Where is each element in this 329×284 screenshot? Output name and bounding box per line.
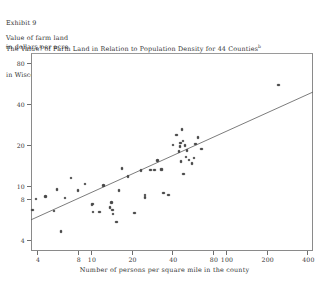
y-tick-label: 80 (17, 60, 25, 67)
data-point (77, 189, 79, 191)
y-tick: 40 (27, 104, 31, 105)
x-tick: 80 (213, 251, 214, 255)
y-tick-label: 4 (21, 237, 25, 244)
data-point (179, 142, 181, 144)
regression-line (31, 53, 313, 251)
x-tick: 200 (267, 251, 268, 255)
exhibit-number: Exhibit 9 (6, 19, 324, 28)
y-tick-label: 40 (17, 101, 25, 108)
data-point (153, 169, 155, 171)
x-tick-label: 20 (128, 256, 136, 263)
data-point (182, 173, 184, 175)
x-tick: 20 (132, 251, 133, 255)
data-point (56, 188, 58, 190)
x-tick-label: 40 (169, 256, 177, 263)
data-point (115, 221, 117, 223)
y-tick-label: 8 (21, 196, 25, 203)
data-point (118, 189, 120, 191)
y-axis-label: Value of farm land in dollars per acre (6, 34, 68, 51)
data-point (133, 212, 135, 214)
x-tick-label: 200 (262, 256, 274, 263)
x-tick: 40 (172, 251, 173, 255)
x-tick: 8 (78, 251, 79, 255)
x-tick-label: 80 (210, 256, 218, 263)
y-tick: 20 (27, 145, 31, 146)
x-tick-label: 8 (77, 256, 81, 263)
x-tick: 400 (307, 251, 308, 255)
y-axis-label-line-1: Value of farm land (6, 34, 68, 43)
data-point (175, 134, 177, 136)
x-tick: 100 (226, 251, 227, 255)
x-tick-label: 4 (36, 256, 40, 263)
y-tick: 4 (27, 240, 31, 241)
data-point (110, 201, 112, 203)
data-point (35, 198, 37, 200)
y-tick: 80 (27, 63, 31, 64)
x-axis-label: Number of persons per square mile in the… (0, 266, 329, 274)
data-point (149, 169, 151, 171)
footnote-marker-b: b (258, 44, 261, 49)
data-point (102, 184, 104, 186)
x-tick-label: 100 (221, 256, 233, 263)
data-point (181, 128, 183, 130)
data-point (186, 149, 188, 151)
data-point (84, 183, 86, 185)
data-point (197, 136, 199, 138)
y-tick-label: 20 (17, 142, 25, 149)
data-point (191, 162, 193, 164)
y-tick-label: 10 (17, 183, 25, 190)
data-point (121, 167, 123, 169)
data-point (179, 145, 181, 147)
data-point (60, 230, 62, 232)
y-axis-label-line-2: in dollars per acre (6, 43, 68, 52)
data-point (161, 168, 163, 170)
data-point (44, 195, 46, 197)
x-tick: 4 (37, 251, 38, 255)
x-tick-label: 10 (88, 256, 96, 263)
data-point (184, 144, 186, 146)
regression-line-path (31, 92, 313, 220)
data-point (156, 159, 158, 161)
x-tick-label: 400 (302, 256, 314, 263)
plot-area: 4810204080 4810204080100200400 (31, 53, 313, 251)
data-point (98, 211, 100, 213)
y-tick: 8 (27, 199, 31, 200)
y-tick: 10 (27, 186, 31, 187)
data-point (144, 196, 146, 198)
data-point (180, 160, 182, 162)
title-text-b: of Farm Land in Relation to Population D… (42, 45, 258, 53)
exhibit-figure: Exhibit 9 The Valuea of Farm Land in Rel… (0, 0, 329, 284)
x-tick: 10 (91, 251, 92, 255)
data-point (127, 175, 129, 177)
